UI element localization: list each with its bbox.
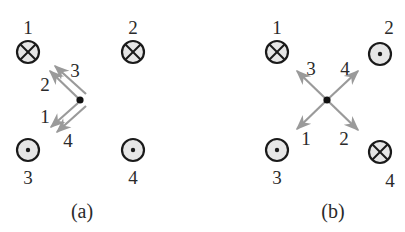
wire-4-into-page-icon bbox=[369, 141, 391, 163]
wire-label: 4 bbox=[385, 170, 395, 191]
wire-2-into-page-icon bbox=[122, 41, 144, 63]
vector-label: 2 bbox=[40, 74, 50, 95]
wire-1-into-page-icon bbox=[266, 41, 288, 63]
wire-label: 1 bbox=[272, 17, 282, 38]
panel-caption: (b) bbox=[321, 200, 344, 223]
wire-label: 2 bbox=[384, 17, 394, 38]
wire-2-out-of-page-icon bbox=[369, 43, 391, 65]
vector-label: 4 bbox=[340, 58, 350, 79]
field-vectors bbox=[50, 66, 86, 132]
wire-3-out-of-page-icon bbox=[266, 139, 288, 161]
wire-3-out-of-page-icon bbox=[17, 139, 39, 161]
figure: 1 2 3 4 bbox=[0, 0, 405, 232]
wire-label: 2 bbox=[128, 17, 138, 38]
wire-label: 4 bbox=[128, 167, 138, 188]
vector-label: 3 bbox=[70, 60, 80, 81]
vector-arrow-icon bbox=[297, 100, 327, 129]
vector-label: 3 bbox=[306, 58, 316, 79]
wire-label: 3 bbox=[272, 167, 282, 188]
vector-label: 4 bbox=[63, 130, 73, 151]
field-point bbox=[323, 96, 330, 103]
vector-arrow-icon bbox=[327, 100, 358, 130]
panel-b: 1 2 3 4 3 4 1 2 (b) bbox=[266, 17, 395, 223]
wire-label: 1 bbox=[23, 17, 33, 38]
panel-a: 1 2 3 4 bbox=[17, 17, 144, 223]
vector-label: 2 bbox=[339, 128, 349, 149]
wire-4-out-of-page-icon bbox=[122, 139, 144, 161]
vector-label: 1 bbox=[40, 106, 50, 127]
vector-label: 1 bbox=[301, 128, 311, 149]
wire-label: 3 bbox=[23, 167, 33, 188]
panel-caption: (a) bbox=[71, 200, 93, 223]
field-vectors bbox=[297, 71, 358, 130]
field-point bbox=[76, 96, 83, 103]
wire-1-into-page-icon bbox=[17, 41, 39, 63]
vector-arrow-icon bbox=[51, 103, 78, 127]
